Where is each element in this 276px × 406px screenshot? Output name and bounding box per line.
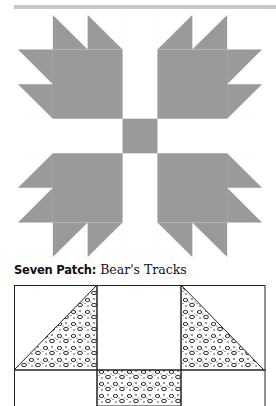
caption-title: Bear's Tracks [96,262,187,277]
leopard-print-quilt-block [14,285,266,406]
bears-tracks-quilt-block [18,15,262,257]
quilt-block-diagram [18,15,262,257]
block-caption: Seven Patch: Bear's Tracks [14,262,187,277]
caption-label: Seven Patch: [14,263,96,277]
top-rule [14,5,276,9]
quilt-block-diagram-partial [14,285,266,406]
